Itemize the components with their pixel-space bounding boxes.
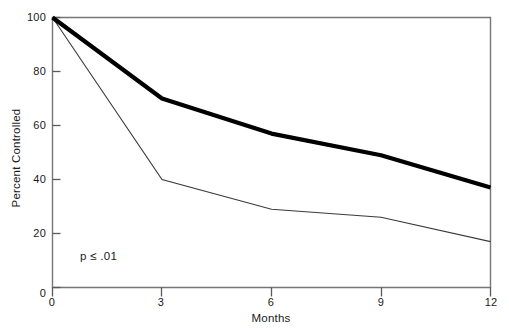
y-axis-ticks [53,18,61,288]
x-tick-label-3: 3 [158,296,164,308]
chart-figure: 100 80 60 40 20 0 0 3 6 9 12 Percent Con… [0,0,509,333]
x-tick-label-6: 6 [268,296,274,308]
p-value-annotation: p ≤ .01 [80,250,117,262]
y-tick-label-100: 100 [2,11,46,23]
x-tick-label-9: 9 [378,296,384,308]
line-chart-plot [0,0,509,333]
y-tick-label-40: 40 [2,173,46,185]
axis-frame [53,18,491,288]
y-axis-title: Percent Controlled [10,98,22,218]
y-tick-label-0: 0 [2,287,46,299]
x-tick-label-12: 12 [485,296,498,308]
y-tick-label-80: 80 [2,65,46,77]
data-line-thick [53,18,491,188]
y-tick-label-60: 60 [2,119,46,131]
x-axis-title: Months [252,312,291,324]
y-tick-label-20: 20 [2,227,46,239]
x-tick-label-0: 0 [49,296,55,308]
data-line-thin [53,18,491,242]
